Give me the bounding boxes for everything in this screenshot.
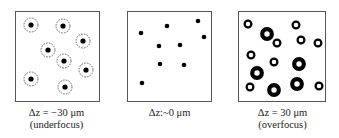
image-box	[15, 11, 100, 102]
panel-focus: Δz:~0 μm	[113, 0, 226, 138]
panel-label: Δz:~0 μm	[113, 107, 226, 119]
spots-overfocus	[239, 12, 327, 103]
panel-overfocus: Δz = 30 μm (overfocus)	[226, 0, 339, 138]
panel-label: Δz = −30 μm	[0, 107, 113, 119]
spots-underfocus	[16, 12, 101, 103]
panel-sublabel: (underfocus)	[0, 119, 113, 131]
panel-underfocus: Δz = −30 μm (underfocus)	[0, 0, 113, 138]
panel-label: Δz = 30 μm	[226, 107, 339, 119]
panel-sublabel: (overfocus)	[226, 119, 339, 131]
spots-focus	[128, 12, 213, 103]
image-box	[127, 11, 212, 102]
image-box	[238, 11, 326, 102]
